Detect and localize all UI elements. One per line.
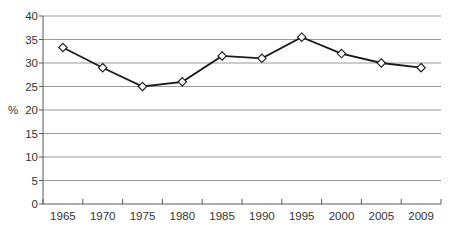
- y-axis-tick-label: 25: [25, 81, 38, 93]
- data-point-marker: [138, 82, 146, 90]
- data-point-marker: [258, 54, 266, 62]
- data-point-marker: [417, 64, 425, 72]
- x-axis-tick-label: 1990: [249, 210, 275, 222]
- data-point-marker: [298, 33, 306, 41]
- data-point-marker: [59, 43, 67, 51]
- series-line: [63, 37, 421, 86]
- y-axis-title: %: [8, 104, 18, 116]
- chart-container: % 05101520253035401965197019751980198519…: [0, 0, 450, 235]
- y-axis-tick-label: 40: [25, 10, 38, 22]
- x-axis-tick-label: 2005: [369, 210, 395, 222]
- x-axis-tick-label: 1970: [90, 210, 116, 222]
- data-point-marker: [337, 49, 345, 57]
- y-axis-tick-label: 20: [25, 104, 38, 116]
- x-axis-tick-label: 1980: [170, 210, 196, 222]
- x-axis-tick-label: 2000: [329, 210, 355, 222]
- y-axis-tick-label: 35: [25, 34, 38, 46]
- y-axis-tick-label: 0: [32, 198, 38, 210]
- y-axis-tick-label: 5: [32, 175, 38, 187]
- x-axis-tick-label: 1995: [289, 210, 315, 222]
- y-axis-tick-label: 30: [25, 57, 38, 69]
- y-axis-tick-label: 15: [25, 128, 38, 140]
- x-axis-tick-label: 1965: [50, 210, 76, 222]
- x-axis-tick-label: 2009: [408, 210, 434, 222]
- data-point-marker: [99, 64, 107, 72]
- x-axis-tick-label: 1975: [130, 210, 156, 222]
- y-axis-tick-label: 10: [25, 151, 38, 163]
- data-point-marker: [377, 59, 385, 67]
- chart-svg: % 05101520253035401965197019751980198519…: [0, 0, 450, 235]
- x-axis-tick-label: 1985: [209, 210, 235, 222]
